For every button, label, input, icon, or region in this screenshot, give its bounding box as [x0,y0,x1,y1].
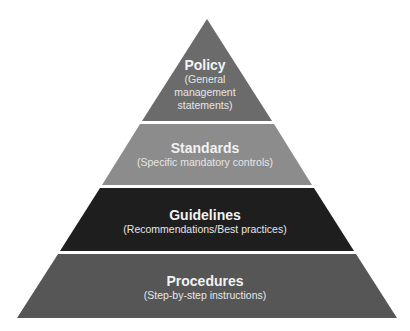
tier-subtitle-line: (Step-by-step instructions) [0,289,410,302]
tier-subtitle-line: (Specific mandatory controls) [0,156,410,169]
tier-subtitle-line: statements) [0,99,410,112]
tier-subtitle-line: (Recommendations/Best practices) [0,223,410,236]
tier-title: Standards [0,140,410,156]
tier-subtitle-line: (General [0,73,410,86]
tier-title: Policy [0,57,410,73]
tier-title: Procedures [0,273,410,289]
tier-title: Guidelines [0,207,410,223]
tier-policy-label: Policy (General management statements) [0,57,410,112]
tier-standards-label: Standards (Specific mandatory controls) [0,140,410,169]
tier-guidelines-label: Guidelines (Recommendations/Best practic… [0,207,410,236]
tier-subtitle-line: management [0,86,410,99]
tier-procedures-label: Procedures (Step-by-step instructions) [0,273,410,302]
